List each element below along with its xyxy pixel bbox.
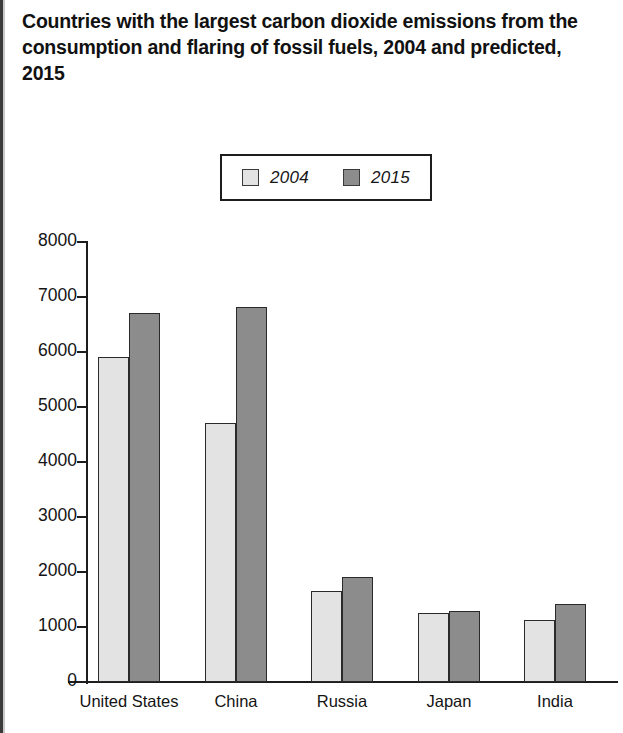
y-tick-label-4000: 4000 [19, 450, 77, 471]
bar-india-2004 [524, 620, 555, 682]
y-tick-label-3000: 3000 [19, 505, 77, 526]
y-tick-label-6000: 6000 [19, 340, 77, 361]
y-tick-2000 [77, 571, 87, 573]
y-tick-label-7000: 7000 [19, 285, 77, 306]
y-tick-label-5000: 5000 [19, 395, 77, 416]
y-tick-4000 [77, 461, 87, 463]
y-tick-label-2000: 2000 [19, 560, 77, 581]
y-tick-label-0: 0 [19, 670, 77, 691]
bar-russia-2004 [311, 591, 342, 682]
bar-united-states-2004 [98, 357, 129, 682]
y-tick-0 [77, 681, 87, 683]
y-tick-1000 [77, 626, 87, 628]
y-tick-8000 [77, 241, 87, 243]
y-tick-3000 [77, 516, 87, 518]
plot-area: 8000 7000 6000 5000 4000 3000 2000 1000 [0, 0, 623, 733]
bar-russia-2015 [342, 577, 373, 682]
y-tick-5000 [77, 406, 87, 408]
bar-china-2004 [205, 423, 236, 682]
bar-japan-2004 [418, 613, 449, 682]
y-tick-7000 [77, 296, 87, 298]
chart-figure: Countries with the largest carbon dioxid… [0, 0, 623, 733]
bar-india-2015 [555, 604, 586, 682]
y-tick-label-8000: 8000 [19, 230, 77, 251]
x-label-india: India [485, 692, 623, 711]
y-tick-6000 [77, 351, 87, 353]
bar-china-2015 [236, 307, 267, 682]
bar-japan-2015 [449, 611, 480, 682]
y-tick-label-1000: 1000 [19, 615, 77, 636]
bar-united-states-2015 [129, 313, 160, 682]
